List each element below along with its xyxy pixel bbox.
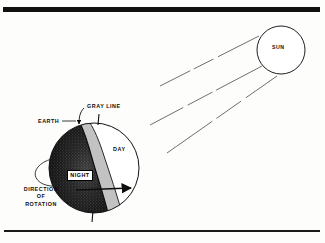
rotation-label-line-2: OF xyxy=(17,193,65,200)
rotation-label-line-3: ROTATION xyxy=(17,201,65,208)
night-label: NIGHT xyxy=(67,170,93,181)
day-label: DAY xyxy=(113,146,126,153)
earth-label: EARTH xyxy=(38,118,59,125)
figure-canvas: SUN GRAY LINE EARTH DAY NIGHT DIRECTION … xyxy=(0,0,325,243)
gray-line-leader xyxy=(79,108,84,124)
sun-ray-2 xyxy=(150,66,262,125)
direction-of-rotation-label: DIRECTION OF ROTATION xyxy=(17,186,65,208)
sun-ray-1 xyxy=(160,36,259,86)
sun-label: SUN xyxy=(272,44,285,51)
rotation-label-line-1: DIRECTION xyxy=(17,186,65,193)
gray-line-label: GRAY LINE xyxy=(87,103,121,110)
